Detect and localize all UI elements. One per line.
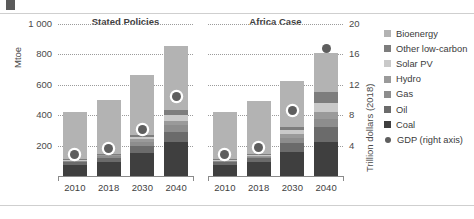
- legend-swatch-icon: [384, 60, 391, 67]
- bar-column[interactable]: [247, 24, 271, 176]
- legend-item[interactable]: Hydro: [384, 72, 474, 87]
- y-axis-tick-right: 4: [349, 141, 354, 151]
- y-axis-tick-right: 12: [349, 80, 360, 90]
- bar-segment[interactable]: [280, 134, 304, 138]
- legend-swatch-icon: [384, 91, 391, 98]
- bar-segment[interactable]: [97, 156, 121, 158]
- legend-item-label: Other low-carbon: [396, 44, 467, 54]
- bar-segment[interactable]: [164, 142, 188, 176]
- legend-item[interactable]: GDP (right axis): [384, 132, 474, 147]
- document-glyph-icon: [6, 0, 15, 10]
- bar-segment[interactable]: [130, 142, 154, 146]
- y-axis-tick-left: 400: [36, 110, 52, 120]
- bar-segment[interactable]: [130, 146, 154, 153]
- bar-segment[interactable]: [213, 161, 237, 162]
- legend-swatch-icon: [384, 121, 391, 128]
- bar-segment[interactable]: [314, 112, 338, 118]
- bar-segment[interactable]: [247, 158, 271, 162]
- bar-column[interactable]: [280, 24, 304, 176]
- legend-swatch-icon: [384, 76, 391, 83]
- top-divider: [0, 13, 474, 14]
- bar-segment[interactable]: [280, 143, 304, 152]
- bar-segment[interactable]: [213, 160, 237, 161]
- chart-root: Mtoe Trillion dollars (2018) Stated Poli…: [0, 0, 474, 219]
- bar-segment[interactable]: [314, 119, 338, 128]
- bar-segment[interactable]: [247, 162, 271, 176]
- axis-tick-mark: [208, 176, 209, 181]
- y-axis-tick-right: 20: [349, 19, 360, 29]
- y-axis-tick-right: 16: [349, 49, 360, 59]
- bar-segment[interactable]: [97, 158, 121, 162]
- bar-segment[interactable]: [130, 135, 154, 137]
- legend-item-label: Hydro: [396, 74, 421, 84]
- bar-segment[interactable]: [130, 139, 154, 142]
- bar-segment[interactable]: [280, 138, 304, 143]
- bar-column[interactable]: [97, 24, 121, 176]
- legend-swatch-icon: [384, 45, 391, 52]
- bar-segment[interactable]: [164, 125, 188, 131]
- axis-tick-mark: [343, 176, 344, 181]
- bar-segment[interactable]: [164, 115, 188, 121]
- legend-swatch-icon: [384, 30, 391, 37]
- legend-item-label: Solar PV: [396, 59, 433, 69]
- legend-item[interactable]: Coal: [384, 117, 474, 132]
- plot-area: [58, 24, 343, 176]
- legend-item-label: Coal: [396, 120, 415, 130]
- gdp-marker[interactable]: [288, 106, 297, 115]
- bar-segment[interactable]: [63, 161, 87, 162]
- bar-segment[interactable]: [164, 132, 188, 143]
- gdp-marker[interactable]: [138, 125, 147, 134]
- bar-segment[interactable]: [314, 103, 338, 112]
- legend-item-label: Bioenergy: [396, 29, 438, 39]
- legend-circle-icon: [385, 137, 391, 143]
- legend-swatch-icon: [384, 106, 391, 113]
- bar-segment[interactable]: [164, 121, 188, 126]
- bottom-divider: [0, 205, 474, 206]
- bar-segment[interactable]: [314, 92, 338, 103]
- bar-segment[interactable]: [63, 162, 87, 165]
- x-axis-tick-label: 2040: [156, 182, 196, 193]
- bar-segment[interactable]: [247, 157, 271, 159]
- legend-item[interactable]: Other low-carbon: [384, 41, 474, 56]
- legend-item-label: GDP (right axis): [397, 135, 463, 145]
- legend-item-label: Gas: [396, 89, 413, 99]
- legend-item[interactable]: Solar PV: [384, 56, 474, 71]
- y-axis-tick-right: 8: [349, 110, 354, 120]
- x-axis-tick-label: 2040: [306, 182, 346, 193]
- y-axis-label-right: Trillion dollars (2018): [364, 84, 375, 172]
- bar-segment[interactable]: [164, 110, 188, 115]
- bar-column[interactable]: [130, 24, 154, 176]
- bar-segment[interactable]: [247, 155, 271, 157]
- legend-item[interactable]: Bioenergy: [384, 26, 474, 41]
- bar-segment[interactable]: [97, 155, 121, 157]
- bar-segment[interactable]: [280, 81, 304, 127]
- bar-segment[interactable]: [63, 160, 87, 161]
- chart-legend: BioenergyOther low-carbonSolar PVHydroGa…: [384, 26, 474, 148]
- bar-segment[interactable]: [63, 165, 87, 176]
- legend-item[interactable]: Gas: [384, 87, 474, 102]
- y-axis-tick-left: 800: [36, 49, 52, 59]
- x-axis-line: [58, 176, 193, 177]
- bar-segment[interactable]: [97, 162, 121, 176]
- y-axis-tick-left: 1 000: [28, 19, 52, 29]
- bar-segment[interactable]: [130, 137, 154, 139]
- top-bar: [0, 0, 474, 14]
- legend-item[interactable]: Oil: [384, 102, 474, 117]
- y-axis-label-left: Mtoe: [12, 47, 23, 68]
- bar-segment[interactable]: [213, 165, 237, 176]
- bar-segment[interactable]: [280, 152, 304, 176]
- legend-item-label: Oil: [396, 105, 407, 115]
- bar-segment[interactable]: [213, 162, 237, 165]
- bar-segment[interactable]: [280, 127, 304, 130]
- bar-segment[interactable]: [314, 127, 338, 142]
- x-axis-line: [208, 176, 343, 177]
- y-axis-tick-left: 200: [36, 141, 52, 151]
- bar-segment[interactable]: [280, 130, 304, 134]
- axis-tick-mark: [193, 176, 194, 181]
- y-axis-tick-left: 600: [36, 80, 52, 90]
- bar-segment[interactable]: [314, 53, 338, 92]
- bar-segment[interactable]: [314, 142, 338, 176]
- axis-tick-mark: [58, 176, 59, 181]
- bar-segment[interactable]: [130, 153, 154, 176]
- gdp-marker[interactable]: [322, 44, 331, 53]
